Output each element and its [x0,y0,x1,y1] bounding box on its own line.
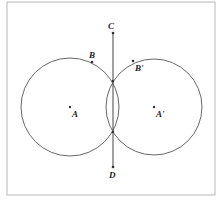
label-B-prime: B' [134,63,144,73]
point-B [91,61,94,64]
intersection-upper [112,80,114,82]
point-A-prime [153,106,155,108]
point-C [112,32,115,35]
label-D: D [108,170,116,180]
intersection-lower [112,131,114,133]
label-A-prime: A' [155,109,165,119]
label-C: C [108,21,115,31]
point-A [69,106,71,108]
point-B-prime [132,60,135,63]
point-D [112,166,115,169]
label-A: A [71,109,78,119]
geometry-diagram: C D B B' A A' [0,0,220,203]
label-B: B [88,50,95,60]
